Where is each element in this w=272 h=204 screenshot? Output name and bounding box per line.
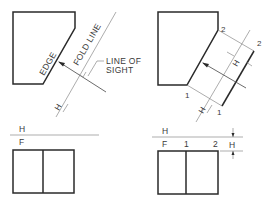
fold-line-label: FOLD LINE <box>71 22 103 67</box>
h-label: H <box>162 126 168 136</box>
h-label: H <box>19 124 25 134</box>
h-dim-label: H <box>229 140 235 150</box>
projection-line-1 <box>187 85 222 106</box>
arrowhead-down-icon <box>232 133 235 137</box>
line-of-sight-label-2: SIGHT <box>106 65 133 75</box>
dim-arrow-left <box>227 52 234 56</box>
arrowhead-icon <box>202 63 209 68</box>
arrowhead-icon <box>58 62 65 67</box>
point-1-label: 1 <box>184 139 189 149</box>
dim-tick <box>63 104 68 112</box>
panel-bottom-right: H F 1 2 H <box>152 126 243 194</box>
point-1-label-a: 1 <box>185 91 190 100</box>
point-2-label-a: 2 <box>221 25 226 34</box>
leader-line <box>88 61 104 76</box>
point-2-label: 2 <box>213 139 218 149</box>
top-view-outline <box>158 12 218 85</box>
arrowhead-up-icon <box>232 151 235 155</box>
dim-tick-lower <box>207 105 212 113</box>
h-label-lower: H <box>197 105 208 115</box>
point-2-label-b: 2 <box>257 39 262 48</box>
h-label: H <box>53 102 64 112</box>
panel-bottom-left: H F <box>10 124 99 193</box>
point-1-label-b: 1 <box>217 108 222 117</box>
auxiliary-view-diagram: EDGE FOLD LINE LINE OF SIGHT H 2 2 H 1 1… <box>0 0 272 204</box>
panel-top-left: EDGE FOLD LINE LINE OF SIGHT H <box>13 12 141 117</box>
front-view-outline <box>158 151 218 194</box>
auxiliary-edge <box>222 51 254 106</box>
panel-top-right: 2 2 H 1 1 H <box>158 12 262 122</box>
f-label: F <box>162 139 168 149</box>
h-label: H <box>231 58 242 68</box>
f-label: F <box>19 137 25 147</box>
